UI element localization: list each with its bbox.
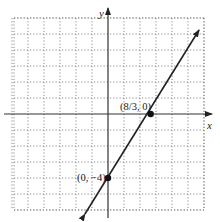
coordinate-plane-chart: x y (8/3, 0) (0, −4) xyxy=(0,0,220,222)
point-y-intercept-label: (0, −4) xyxy=(77,172,106,184)
point-y-intercept xyxy=(105,175,111,181)
chart-svg: x y (8/3, 0) (0, −4) xyxy=(0,0,220,222)
x-axis-label: x xyxy=(206,119,212,131)
y-axis-label: y xyxy=(98,7,104,19)
plotted-line xyxy=(85,30,199,214)
point-x-intercept-label: (8/3, 0) xyxy=(120,101,151,113)
